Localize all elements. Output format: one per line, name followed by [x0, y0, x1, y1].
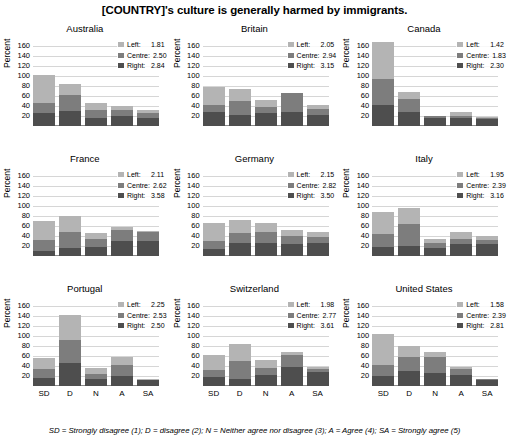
bar-segment-centre: [372, 365, 394, 376]
y-axis-tick-label: 40: [191, 102, 199, 110]
legend: Left:2.25Centre:2.53Right:2.50: [117, 300, 168, 330]
bar-segment-right: [424, 248, 446, 256]
y-axis-label: Percent: [172, 39, 182, 68]
bar-segment-centre: [111, 230, 133, 241]
legend-value: 3.61: [321, 322, 335, 329]
bar-d[interactable]: [398, 208, 420, 256]
bar-segment-right: [203, 249, 225, 256]
bar-segment-right: [372, 376, 394, 386]
y-axis-tick-label: 20: [361, 242, 369, 250]
bar-d[interactable]: [59, 315, 81, 386]
legend-swatch-right-icon: [457, 193, 463, 198]
x-axis-labels: SDDNASA: [372, 389, 498, 398]
bar-sa[interactable]: [476, 236, 498, 256]
legend-item-right: Right:3.15: [288, 62, 337, 69]
y-axis-tick-label: 140: [17, 182, 30, 190]
bar-segment-right: [307, 243, 329, 256]
bar-sd[interactable]: [372, 212, 394, 256]
bar-n[interactable]: [85, 368, 107, 386]
bar-a[interactable]: [111, 106, 133, 126]
bar-n[interactable]: [424, 239, 446, 256]
bar-sa[interactable]: [307, 232, 329, 256]
legend: Left:2.05Centre:2.94Right:3.15: [287, 40, 338, 70]
bar-sa[interactable]: [476, 117, 498, 126]
bar-segment-right: [33, 251, 55, 256]
bar-segment-right: [59, 248, 81, 256]
bar-a[interactable]: [281, 230, 303, 256]
bar-sd[interactable]: [33, 358, 55, 386]
y-axis-tick-label: 60: [191, 92, 199, 100]
legend-swatch-centre-icon: [288, 183, 294, 188]
y-axis-tick-label: 60: [191, 352, 199, 360]
bar-n[interactable]: [255, 360, 277, 386]
x-axis-tick-label: SA: [476, 389, 498, 398]
legend-item-left: Left:2.11: [118, 171, 167, 178]
bar-n[interactable]: [85, 233, 107, 256]
legend-label: Centre:: [297, 182, 320, 189]
bar-n[interactable]: [85, 103, 107, 126]
x-axis-tick-label: SD: [33, 389, 55, 398]
bar-a[interactable]: [450, 367, 472, 386]
bar-n[interactable]: [255, 100, 277, 126]
bar-a[interactable]: [111, 227, 133, 256]
legend-label: Right:: [297, 62, 318, 69]
bar-sd[interactable]: [203, 355, 225, 386]
bar-d[interactable]: [229, 344, 251, 386]
bar-segment-left: [229, 220, 251, 233]
bar-d[interactable]: [59, 84, 81, 126]
bar-d[interactable]: [229, 89, 251, 126]
bar-a[interactable]: [450, 232, 472, 256]
bar-d[interactable]: [229, 220, 251, 256]
bar-a[interactable]: [111, 357, 133, 386]
legend-swatch-left-icon: [457, 42, 463, 47]
bar-n[interactable]: [424, 116, 446, 126]
legend-value: 3.58: [151, 192, 165, 199]
legend-value: 2.81: [490, 322, 504, 329]
bar-segment-left: [33, 75, 55, 104]
figure-footnote: SD = Strongly disagree (1); D = disagree…: [0, 426, 509, 435]
bar-segment-centre: [229, 101, 251, 115]
y-axis-label: Percent: [341, 39, 351, 68]
bar-sd[interactable]: [33, 75, 55, 126]
bar-sd[interactable]: [372, 334, 394, 386]
bar-segment-right: [476, 119, 498, 126]
y-axis-tick-label: 100: [357, 72, 370, 80]
panel-germany: GermanyPercent20406080100120140160Left:2…: [170, 152, 340, 282]
bar-d[interactable]: [398, 92, 420, 126]
bar-sd[interactable]: [33, 221, 55, 256]
bar-a[interactable]: [281, 352, 303, 386]
bar-a[interactable]: [281, 93, 303, 126]
y-axis-tick-label: 100: [17, 202, 30, 210]
bar-sd[interactable]: [203, 223, 225, 256]
bar-sa[interactable]: [137, 379, 159, 386]
bar-segment-left: [33, 358, 55, 369]
y-axis-label: Percent: [2, 39, 12, 68]
legend-item-left: Left:2.25: [118, 301, 167, 308]
y-axis-tick-label: 120: [357, 62, 370, 70]
bar-segment-right: [203, 377, 225, 386]
legend-swatch-left-icon: [118, 42, 124, 47]
legend-label: Right:: [466, 192, 487, 199]
legend: Left:1.81Centre:2.50Right:2.84: [117, 40, 168, 70]
bar-a[interactable]: [450, 112, 472, 126]
bar-sa[interactable]: [307, 105, 329, 126]
bar-segment-left: [450, 232, 472, 240]
legend-value: 2.50: [153, 52, 167, 59]
legend-swatch-centre-icon: [118, 53, 124, 58]
bar-sa[interactable]: [137, 110, 159, 126]
bar-n[interactable]: [255, 223, 277, 256]
bar-n[interactable]: [424, 352, 446, 386]
bar-sa[interactable]: [476, 379, 498, 386]
bar-d[interactable]: [59, 216, 81, 256]
bar-segment-centre: [203, 105, 225, 112]
bar-segment-right: [398, 112, 420, 126]
bar-sa[interactable]: [307, 367, 329, 386]
y-axis-tick-label: 100: [187, 332, 200, 340]
legend-item-centre: Centre:2.94: [288, 52, 337, 59]
bar-sd[interactable]: [203, 87, 225, 126]
bar-d[interactable]: [398, 346, 420, 386]
bar-sd[interactable]: [372, 42, 394, 126]
legend-value: 2.15: [321, 171, 335, 178]
bar-sa[interactable]: [137, 231, 159, 256]
legend-value: 2.50: [151, 322, 165, 329]
